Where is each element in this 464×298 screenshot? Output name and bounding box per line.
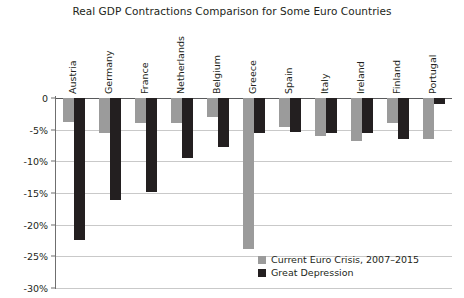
x-tick-label: Spain: [283, 67, 294, 94]
legend-item-depression: Great Depression: [258, 266, 419, 279]
bar: [207, 98, 218, 117]
legend-label-crisis: Current Euro Crisis, 2007–2015: [271, 253, 419, 266]
y-tick-label: -10%: [4, 156, 48, 167]
legend-swatch-depression-icon: [258, 269, 266, 277]
y-tick-label: -25%: [4, 251, 48, 262]
bar-group: [128, 98, 164, 288]
bar-group: [416, 98, 452, 288]
x-tick-label: Austria: [67, 60, 78, 94]
x-tick-label: Italy: [319, 73, 330, 94]
legend-label-depression: Great Depression: [271, 266, 354, 279]
bar: [146, 98, 157, 192]
x-tick-label: Belgium: [211, 55, 222, 94]
bar: [387, 98, 398, 123]
bar: [74, 98, 85, 240]
bar: [135, 98, 146, 123]
bar: [110, 98, 121, 200]
bar: [254, 98, 265, 133]
y-tick-label: -20%: [4, 219, 48, 230]
x-tick-label: Finland: [391, 60, 402, 94]
bar-group: [92, 98, 128, 288]
chart-legend: Current Euro Crisis, 2007–2015 Great Dep…: [258, 253, 419, 279]
bar-group: [56, 98, 92, 288]
y-tick-label: 0: [4, 93, 48, 104]
gridline: [56, 288, 452, 289]
chart-container: Real GDP Contractions Comparison for Som…: [0, 0, 464, 298]
bar-group: [200, 98, 236, 288]
bar: [398, 98, 409, 139]
bar: [99, 98, 110, 133]
bar: [63, 98, 74, 122]
legend-item-crisis: Current Euro Crisis, 2007–2015: [258, 253, 419, 266]
bar: [171, 98, 182, 123]
bar: [279, 98, 290, 127]
x-tick-label: Netherlands: [175, 36, 186, 94]
bar: [290, 98, 301, 132]
chart-title: Real GDP Contractions Comparison for Som…: [0, 5, 464, 17]
y-tick-label: -30%: [4, 283, 48, 294]
bar: [243, 98, 254, 249]
x-tick-label: Portugal: [427, 55, 438, 94]
bar: [434, 98, 445, 104]
x-tick-label: Ireland: [355, 61, 366, 94]
bar: [218, 98, 229, 147]
x-tick-label: Germany: [103, 50, 114, 94]
bar: [315, 98, 326, 136]
bar: [326, 98, 337, 133]
x-tick-label: France: [139, 62, 150, 94]
x-axis-category-labels: AustriaGermanyFranceNetherlandsBelgiumGr…: [56, 36, 452, 96]
bar: [362, 98, 373, 133]
bar: [182, 98, 193, 158]
bar: [423, 98, 434, 139]
bar-group: [164, 98, 200, 288]
x-tick-label: Greece: [247, 60, 258, 94]
y-tick-label: -5%: [4, 124, 48, 135]
bar: [351, 98, 362, 141]
y-tick-label: -15%: [4, 188, 48, 199]
legend-swatch-crisis-icon: [258, 256, 266, 264]
